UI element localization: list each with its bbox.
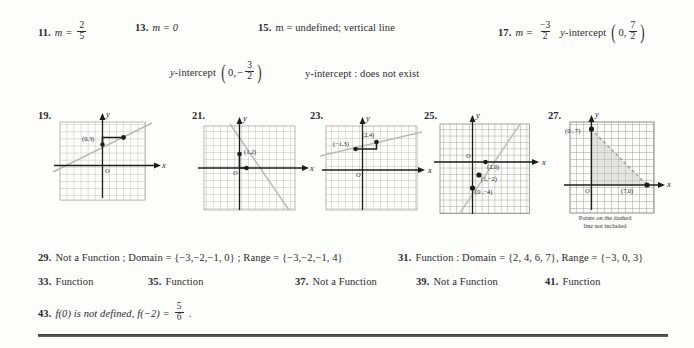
answer-item-33: 33. Function — [38, 276, 94, 287]
origin-label: O — [356, 171, 361, 178]
graph-21: 21. x y O (1,2) — [192, 110, 322, 215]
answer-item-17: 17. m = −3 2 y-intercept ( 0, 7 2 ) — [498, 22, 646, 42]
origin-label: O — [233, 169, 238, 176]
answer-text: y-intercept : does not exist — [305, 68, 419, 79]
answer-text: m = undefined; vertical line — [275, 22, 395, 33]
fraction-denominator: 5 — [77, 31, 86, 42]
paren-right: ) — [257, 64, 261, 81]
answer-item-37: 37. Not a Function — [295, 276, 377, 287]
graph-27-caption: Points on the dashed line not included — [560, 214, 650, 230]
answer-item-15-intercept: y-intercept : does not exist — [305, 68, 419, 79]
answer-text: Function — [55, 276, 93, 287]
y-axis-label: y — [476, 110, 480, 120]
y-axis-label: y — [106, 109, 110, 119]
paren-left: ( — [221, 64, 225, 81]
graph-23: 23. x y O (−1,3) — [310, 110, 440, 215]
answer-number: 41. — [545, 276, 558, 287]
answer-text: Not a Function — [433, 276, 497, 287]
y-axis-label: y — [366, 113, 370, 123]
answer-text: m = 0 — [152, 22, 178, 33]
answer-key-page: 11. m = 2 5 13. m = 0 15. m = undefined;… — [0, 0, 694, 348]
fraction-denominator: 2 — [541, 31, 550, 42]
graph-19-plot — [38, 110, 168, 210]
graph-25: 25. x y O (2,0) ( — [424, 110, 554, 220]
ordered-pair-0-7over2: ( 0, 7 2 ) — [610, 22, 646, 42]
paren-left: ( — [612, 24, 616, 41]
pair-sign: − — [237, 67, 243, 78]
y-intercept-label: y-intercept — [560, 27, 606, 38]
paren-right: ) — [641, 24, 645, 41]
origin-label: O — [585, 187, 590, 194]
answer-number: 37. — [295, 276, 308, 287]
fraction-3-2: 3 2 — [245, 61, 254, 81]
fraction-7-2: 7 2 — [629, 21, 638, 41]
answer-number: 31. — [398, 252, 411, 263]
origin-label: O — [466, 152, 471, 159]
graph-21-plot — [192, 110, 322, 215]
x-axis-label: x — [667, 179, 671, 189]
answer-number: 11. — [38, 27, 51, 38]
pair-x: 0, — [228, 67, 236, 78]
fraction-denominator: 2 — [629, 31, 638, 42]
answer-text: Not a Function — [312, 276, 376, 287]
point-label: (1,2) — [244, 148, 256, 155]
answer-text: Function : Domain = {2, 4, 6, 7}, Range … — [415, 252, 643, 263]
answer-item-41: 41. Function — [545, 276, 601, 287]
y-axis-label: y — [595, 109, 599, 119]
answer-item-29: 29. Not a Function ; Domain = {−3,−2,−1,… — [38, 252, 343, 263]
y-axis-label: y — [243, 113, 247, 123]
answer-text: f(0) is not defined, f(−2) = — [55, 308, 169, 319]
answer-item-13-intercept: y-intercept ( 0, − 3 2 ) — [170, 62, 263, 82]
graph-19: 19. x y — [38, 110, 168, 210]
x-axis-label: x — [162, 160, 166, 170]
point-label: (0,3) — [82, 135, 94, 142]
point-label: (2,4) — [362, 131, 374, 138]
answer-number: 33. — [38, 276, 51, 287]
answer-item-11: 11. m = 2 5 — [38, 22, 87, 42]
fraction-denominator: 2 — [245, 71, 254, 82]
point-label: (2,0) — [487, 163, 499, 170]
answer-text: Function — [562, 276, 600, 287]
fraction-5-6: 5 6 — [175, 302, 184, 322]
point-label: (0 , 7) — [565, 127, 580, 134]
y-intercept-label: y-intercept — [170, 67, 216, 78]
pair-x: 0, — [618, 27, 626, 38]
fraction-denominator: 6 — [175, 312, 184, 323]
point-label: (1,−2) — [481, 175, 497, 182]
answer-item-13: 13. m = 0 — [135, 22, 178, 33]
answer-number: 43. — [38, 308, 51, 319]
answer-text: Function — [165, 276, 203, 287]
answer-item-35: 35. Function — [148, 276, 204, 287]
graph-23-plot — [310, 110, 440, 215]
fraction-numerator: 3 — [245, 61, 254, 71]
answer-suffix: . — [189, 308, 192, 319]
answer-number: 35. — [148, 276, 161, 287]
answer-number: 15. — [258, 22, 271, 33]
answer-prefix: m = — [55, 27, 73, 38]
point-label: (7,0) — [621, 187, 633, 194]
origin-label: O — [105, 167, 110, 174]
answer-item-39: 39. Not a Function — [416, 276, 498, 287]
point-label: (0 ,−4) — [475, 188, 492, 195]
x-axis-label: x — [542, 157, 546, 167]
fraction-numerator: 7 — [629, 21, 638, 31]
bottom-rule — [38, 334, 668, 337]
ordered-pair-0-neg3over2: ( 0, − 3 2 ) — [220, 62, 263, 82]
fraction-2-5: 2 5 — [77, 21, 86, 41]
graph-27: 27. x y O (0 , — [548, 110, 688, 240]
fraction-neg3-2: −3 2 — [538, 21, 552, 41]
answer-text: Not a Function ; Domain = {−3,−2,−1, 0} … — [55, 252, 342, 263]
fraction-numerator: −3 — [538, 21, 552, 31]
answer-item-15: 15. m = undefined; vertical line — [258, 22, 395, 33]
fraction-numerator: 2 — [77, 21, 86, 31]
answer-number: 17. — [498, 27, 511, 38]
answer-item-43: 43. f(0) is not defined, f(−2) = 5 6 . — [38, 303, 191, 323]
fraction-numerator: 5 — [175, 302, 184, 312]
point-label: (−1,3) — [333, 140, 349, 147]
answer-prefix: m = — [515, 27, 533, 38]
answer-number: 39. — [416, 276, 429, 287]
answer-number: 13. — [135, 22, 148, 33]
answer-item-31: 31. Function : Domain = {2, 4, 6, 7}, Ra… — [398, 252, 643, 263]
answer-number: 29. — [38, 252, 51, 263]
